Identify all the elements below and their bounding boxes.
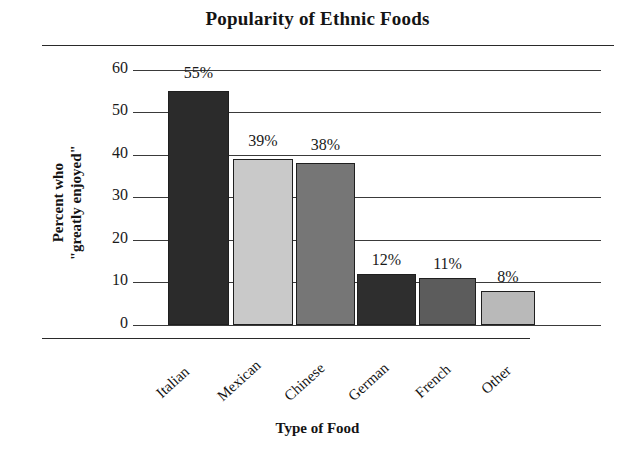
y-tick-label-30: 30 bbox=[88, 186, 128, 204]
x-axis-line bbox=[42, 338, 530, 339]
gridline-0 bbox=[133, 325, 601, 326]
chart-plot-area: Percent who "greatly enjoyed" 60 50 40 3… bbox=[0, 0, 635, 462]
y-tick-label-40: 40 bbox=[88, 144, 128, 162]
bar-chinese[interactable] bbox=[296, 163, 355, 325]
bar-value-mexican: 39% bbox=[233, 132, 293, 150]
bar-german[interactable] bbox=[357, 274, 416, 325]
x-tick-label-italian: Italian bbox=[153, 363, 193, 401]
y-tick-label-60: 60 bbox=[88, 59, 128, 77]
bar-french[interactable] bbox=[419, 278, 476, 325]
x-tick-label-other: Other bbox=[478, 362, 515, 397]
x-tick-label-mexican: Mexican bbox=[214, 357, 264, 405]
x-axis-title: Type of Food bbox=[0, 420, 635, 437]
y-axis-title-line-1: Percent who bbox=[50, 88, 68, 318]
y-axis-title-line-2: "greatly enjoyed" bbox=[68, 88, 86, 318]
y-tick-label-50: 50 bbox=[88, 101, 128, 119]
bar-italian[interactable] bbox=[168, 91, 229, 325]
bar-value-chinese: 38% bbox=[296, 136, 355, 154]
bar-value-french: 11% bbox=[419, 255, 476, 273]
x-tick-label-chinese: Chinese bbox=[281, 360, 328, 405]
bar-other[interactable] bbox=[481, 291, 535, 325]
x-tick-label-german: German bbox=[345, 360, 392, 405]
y-tick-label-10: 10 bbox=[88, 271, 128, 289]
y-tick-label-20: 20 bbox=[88, 229, 128, 247]
bar-value-other: 8% bbox=[481, 268, 535, 286]
bar-value-italian: 55% bbox=[168, 64, 229, 82]
y-axis-title: Percent who "greatly enjoyed" bbox=[50, 88, 85, 318]
bar-mexican[interactable] bbox=[233, 159, 293, 325]
x-tick-label-french: French bbox=[412, 361, 454, 402]
y-tick-label-0: 0 bbox=[88, 314, 128, 332]
bar-value-german: 12% bbox=[357, 251, 416, 269]
